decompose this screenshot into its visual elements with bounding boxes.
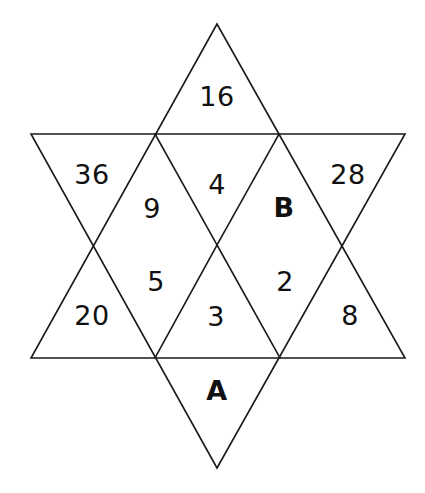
label-lower-left-point: 20 xyxy=(74,300,109,331)
label-top-point: 16 xyxy=(199,81,234,112)
label-inner-down-left: 5 xyxy=(147,266,165,297)
label-inner-up-left: 9 xyxy=(143,193,161,224)
label-inner-down-right: 2 xyxy=(276,266,294,297)
label-inner-up-right: B xyxy=(273,192,294,223)
label-lower-right-point: 8 xyxy=(341,300,359,331)
star-puzzle-figure: 16 36 28 9 4 B 5 3 2 20 8 A xyxy=(0,0,425,493)
label-upper-left-point: 36 xyxy=(74,159,109,190)
label-inner-down-top: 4 xyxy=(208,169,226,200)
label-upper-right-point: 28 xyxy=(330,159,365,190)
label-inner-up-bottom: 3 xyxy=(207,301,225,332)
star-diagram: 16 36 28 9 4 B 5 3 2 20 8 A xyxy=(0,0,425,493)
label-bottom-point: A xyxy=(206,375,227,406)
